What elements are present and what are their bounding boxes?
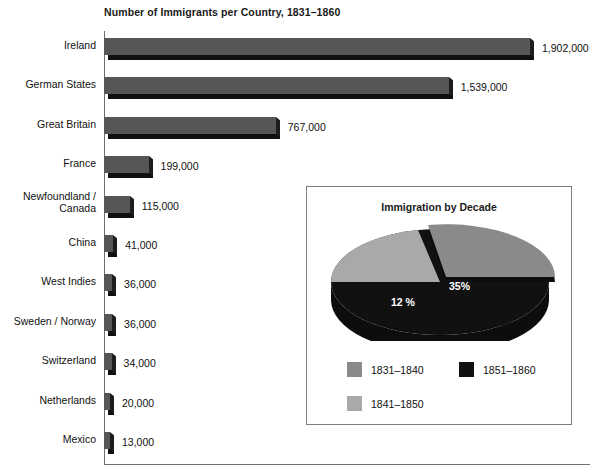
bar-depth-side xyxy=(112,353,116,373)
bar-fill xyxy=(104,196,130,213)
bar-fill xyxy=(104,38,530,55)
pie-label-1831-1840: 12 % xyxy=(391,296,415,308)
bar-category-label: Newfoundland / Canada xyxy=(6,190,96,215)
bar-depth-side xyxy=(149,156,153,176)
bar-category-label: Ireland xyxy=(6,39,96,52)
legend-swatch-icon xyxy=(347,362,362,377)
bar-depth-side xyxy=(276,117,280,137)
legend-item-1831-1840: 1831–1840 xyxy=(347,362,424,377)
bar-category-label: West Indies xyxy=(6,275,96,288)
bar-depth-side xyxy=(110,393,114,413)
bar xyxy=(104,117,276,139)
bar-fill xyxy=(104,117,276,134)
bar-value-label: 1,902,000 xyxy=(542,42,589,54)
bar-value-label: 36,000 xyxy=(124,278,156,290)
bar-category-label: China xyxy=(6,236,96,249)
inset-pie-panel: Immigration by Decade 35% 12 % 53% 1831–… xyxy=(306,186,572,425)
bar-fill xyxy=(104,156,149,173)
bar-value-label: 41,000 xyxy=(125,239,157,251)
bar-fill xyxy=(104,274,112,291)
legend-label: 1831–1840 xyxy=(371,364,424,376)
bar-category-label: Sweden / Norway xyxy=(6,315,96,328)
bar-row: German States1,539,000 xyxy=(104,70,590,106)
bar-value-label: 34,000 xyxy=(124,357,156,369)
bar xyxy=(104,432,110,454)
legend-swatch-icon xyxy=(347,396,362,411)
bar xyxy=(104,196,130,218)
bar-category-label: Switzerland xyxy=(6,354,96,367)
legend-label: 1851–1860 xyxy=(483,364,536,376)
bar-depth-side xyxy=(112,314,116,334)
bar-fill xyxy=(104,353,112,370)
legend-item-1841-1850: 1841–1850 xyxy=(347,396,424,411)
bar-row: Great Britain767,000 xyxy=(104,110,590,146)
bar xyxy=(104,393,110,415)
bar-depth-side xyxy=(530,38,534,58)
legend-item-1851-1860: 1851–1860 xyxy=(459,362,536,377)
page-title: Number of Immigrants per Country, 1831–1… xyxy=(104,6,340,18)
bar-depth-shadow xyxy=(108,94,453,99)
bar-category-label: German States xyxy=(6,78,96,91)
bar-value-label: 199,000 xyxy=(161,160,199,172)
pie-svg xyxy=(323,223,557,341)
bar xyxy=(104,156,149,178)
bar-fill xyxy=(104,235,113,252)
bar-row: Mexico13,000 xyxy=(104,425,590,461)
legend-swatch-icon xyxy=(459,362,474,377)
bar-depth-shadow xyxy=(108,173,153,178)
bar-value-label: 20,000 xyxy=(122,397,154,409)
bar-depth-shadow xyxy=(108,55,534,60)
bar-value-label: 13,000 xyxy=(122,436,154,448)
bar-value-label: 767,000 xyxy=(288,121,326,133)
bar-value-label: 1,539,000 xyxy=(461,81,508,93)
bar xyxy=(104,235,113,257)
pie-label-1841-1850: 35% xyxy=(449,280,470,292)
bar-depth-side xyxy=(449,77,453,97)
bar-depth-side xyxy=(113,235,117,255)
bar-category-label: Mexico xyxy=(6,433,96,446)
bar-value-label: 36,000 xyxy=(124,318,156,330)
pie-chart: 35% 12 % 53% xyxy=(323,223,557,341)
bar-depth-side xyxy=(112,274,116,294)
bar-row: Ireland1,902,000 xyxy=(104,31,590,67)
bar xyxy=(104,274,112,296)
bar-depth-side xyxy=(110,432,114,452)
bar-depth-shadow xyxy=(108,134,280,139)
bar xyxy=(104,353,112,375)
bar-row: France199,000 xyxy=(104,149,590,185)
bar xyxy=(104,38,530,60)
bar-depth-side xyxy=(130,196,134,216)
legend-label: 1841–1850 xyxy=(371,398,424,410)
bar-category-label: France xyxy=(6,157,96,170)
bar-category-label: Great Britain xyxy=(6,118,96,131)
bar xyxy=(104,314,112,336)
bar-category-label: Netherlands xyxy=(6,394,96,407)
bar-value-label: 115,000 xyxy=(142,200,179,212)
pie-label-1851-1860: 53% xyxy=(431,349,452,361)
inset-title: Immigration by Decade xyxy=(307,201,571,213)
bar xyxy=(104,77,449,99)
bar-fill xyxy=(104,77,449,94)
bar-fill xyxy=(104,314,112,331)
